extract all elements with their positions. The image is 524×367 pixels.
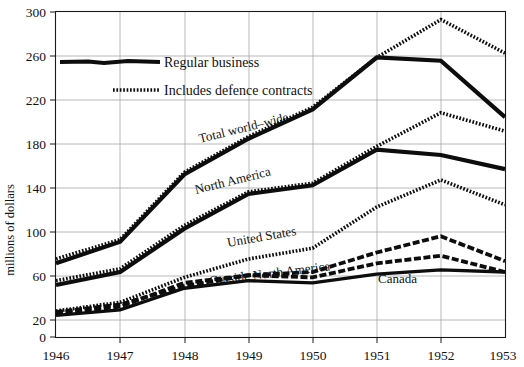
x-tick-label: 1949: [236, 348, 263, 363]
series-annotations: Total world–wide North America United St…: [193, 109, 417, 288]
x-tick-label: 1946: [43, 348, 70, 363]
x-tick-label: 1950: [300, 348, 327, 363]
y-tick-label: 60: [33, 269, 47, 284]
legend: Regular business Includes defence contra…: [60, 55, 312, 98]
series-line-total-world-wide-defence: [56, 20, 505, 259]
x-tick-label: 1953: [490, 348, 517, 363]
y-tick-label: 20: [33, 313, 47, 328]
y-tick-label: 260: [26, 49, 47, 64]
y-axis-title: millions of dollars: [3, 184, 17, 276]
x-tick-label: 1951: [364, 348, 391, 363]
x-tick-label: 1947: [107, 348, 134, 363]
y-tick-label: 180: [26, 137, 47, 152]
x-tick-label: 1948: [172, 348, 199, 363]
series-line-united-states-defence: [56, 180, 505, 311]
chart-plot-area: 300 260 220 180 140 100 60 20 0 1946 194…: [0, 0, 524, 367]
x-axis-tick-labels: 1946 1947 1948 1949 1950 1951 1952 1953: [43, 348, 517, 363]
y-tick-label: 300: [26, 5, 47, 20]
annotation-canada: Canada: [378, 271, 417, 286]
legend-label-defence-contracts: Includes defence contracts: [164, 83, 312, 98]
line-chart: 300 260 220 180 140 100 60 20 0 1946 194…: [0, 0, 524, 367]
y-tick-label: 140: [26, 181, 47, 196]
legend-label-regular-business: Regular business: [164, 55, 259, 70]
x-tick-label: 1952: [428, 348, 455, 363]
legend-swatch-regular-business: [60, 61, 160, 63]
y-axis-tick-labels: 300 260 220 180 140 100 60 20 0: [26, 5, 47, 345]
y-tick-label: 220: [26, 93, 47, 108]
annotation-united-states: United States: [226, 223, 297, 250]
y-tick-label: 0: [39, 330, 46, 345]
y-tick-label: 100: [26, 225, 47, 240]
